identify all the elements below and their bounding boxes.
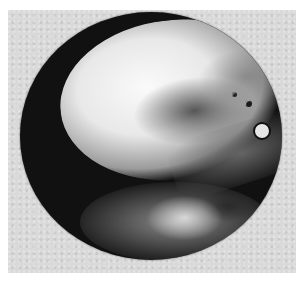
- ring-opening: [253, 122, 271, 140]
- photograph: [8, 10, 296, 273]
- circular-specimen: [20, 12, 282, 260]
- small-bubble: [232, 92, 237, 97]
- medium-bubble: [245, 100, 252, 107]
- lower-mottled-region: [80, 182, 270, 260]
